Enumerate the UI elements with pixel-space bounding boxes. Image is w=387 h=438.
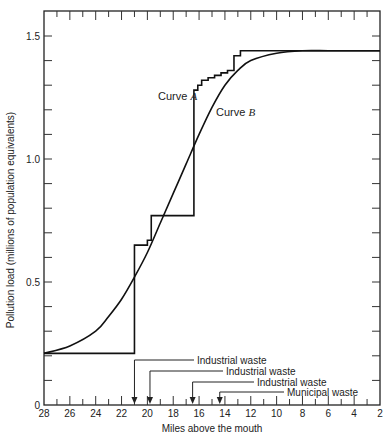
- svg-text:1.5: 1.5: [26, 31, 40, 42]
- svg-text:0: 0: [34, 400, 40, 411]
- curve-a-line: [44, 51, 380, 354]
- svg-text:10: 10: [271, 408, 283, 419]
- svg-text:14: 14: [219, 408, 231, 419]
- waste-label-4: Municipal waste: [287, 387, 359, 398]
- x-axis-label: Miles above the mouth: [162, 423, 263, 434]
- plot-frame: [44, 11, 380, 405]
- svg-text:26: 26: [64, 408, 76, 419]
- svg-text:2: 2: [377, 408, 383, 419]
- svg-text:24: 24: [90, 408, 102, 419]
- curves: [44, 51, 380, 354]
- svg-text:22: 22: [116, 408, 128, 419]
- curve-b-label: Curve B: [216, 106, 255, 118]
- svg-text:20: 20: [142, 408, 154, 419]
- curve-a-label: Curve A: [158, 90, 197, 102]
- svg-text:28: 28: [38, 408, 50, 419]
- svg-text:4: 4: [351, 408, 357, 419]
- svg-text:6: 6: [326, 408, 332, 419]
- waste-label-2: Industrial waste: [226, 366, 296, 377]
- svg-text:18: 18: [168, 408, 180, 419]
- y-axis-label: Pollution load (millions of population e…: [5, 112, 16, 328]
- svg-text:8: 8: [300, 408, 306, 419]
- curve-b-line: [44, 51, 380, 354]
- pollution-load-chart: 282624222018161412108642 00.51.01.5 Curv…: [0, 0, 387, 438]
- svg-text:12: 12: [245, 408, 257, 419]
- waste-label-1: Industrial waste: [197, 355, 267, 366]
- svg-text:16: 16: [194, 408, 206, 419]
- svg-text:1.0: 1.0: [26, 154, 40, 165]
- svg-text:0.5: 0.5: [26, 277, 40, 288]
